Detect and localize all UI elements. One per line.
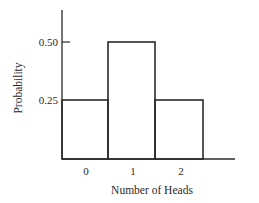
x-tick-label-1: 1 [130, 165, 136, 177]
probability-histogram: 0.50 0.25 0 1 2 Number of Heads Probabil… [0, 0, 259, 203]
bar-0 [62, 100, 108, 159]
x-axis-title: Number of Heads [111, 184, 193, 196]
bars [62, 42, 203, 159]
bar-1 [108, 42, 155, 159]
y-tick-label-0.25: 0.25 [39, 94, 59, 106]
bar-2 [155, 100, 203, 159]
x-tick-label-2: 2 [178, 165, 184, 177]
y-axis-title: Probability [12, 62, 25, 113]
x-tick-label-0: 0 [83, 165, 89, 177]
y-tick-label-0.50: 0.50 [39, 36, 59, 48]
